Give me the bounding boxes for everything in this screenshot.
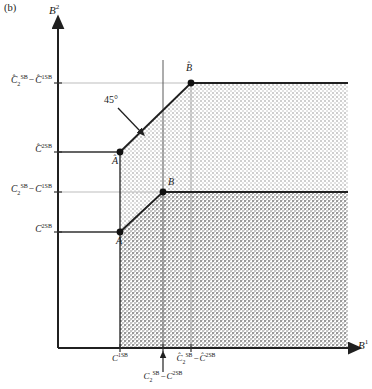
y-tick-label-chat2sb-minus-chat1sb: ˆC2SB−ˆC1SB [0,76,52,86]
panel-tag: (b) [4,3,16,14]
angle-annotation-arrow [118,108,140,131]
point-marker-b-hat [188,80,195,87]
figure-panel-b: (b) B2 B1 45° ˆC2SB−ˆC1SB ˆC2SB C2SB−C1S… [0,0,372,389]
y-tick-label-c2sb: C2SB [0,225,52,235]
y-tick-label-c2sb-minus-c1sb: C2SB−C1SB [0,185,52,195]
y-tick-label-chat2sb: ˆC2SB [0,145,52,155]
point-label-b: B [168,177,174,187]
point-marker-b [160,189,167,196]
x-tick-label-chat2sb-minus-chat2sb: ˆC2SB−ˆC2SB [160,354,232,363]
x-axis-label: B1 [358,340,368,351]
point-label-a-hat: ˆA [112,156,118,166]
x-tick-label-c1sb: C1SB [98,354,142,363]
angle-annotation-label: 45° [104,95,118,105]
point-label-a: A [116,236,122,246]
figure-canvas [0,0,372,389]
feasible-region-dark [120,192,348,348]
point-label-b-hat: ˆB [186,63,192,73]
y-axis-label: B2 [49,5,59,16]
x-tick-label-c2sb-minus-c2sb: C2SB−C2SB [119,372,207,381]
